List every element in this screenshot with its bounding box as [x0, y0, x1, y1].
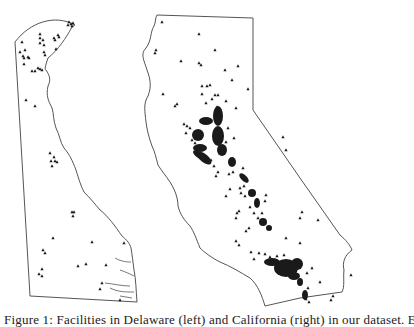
maps-svg	[0, 0, 414, 310]
figure-caption: Figure 1: Facilities in Delaware (left) …	[4, 313, 414, 327]
delaware-map	[15, 20, 137, 302]
facility-maps-figure	[0, 0, 414, 310]
california-map	[143, 15, 352, 306]
